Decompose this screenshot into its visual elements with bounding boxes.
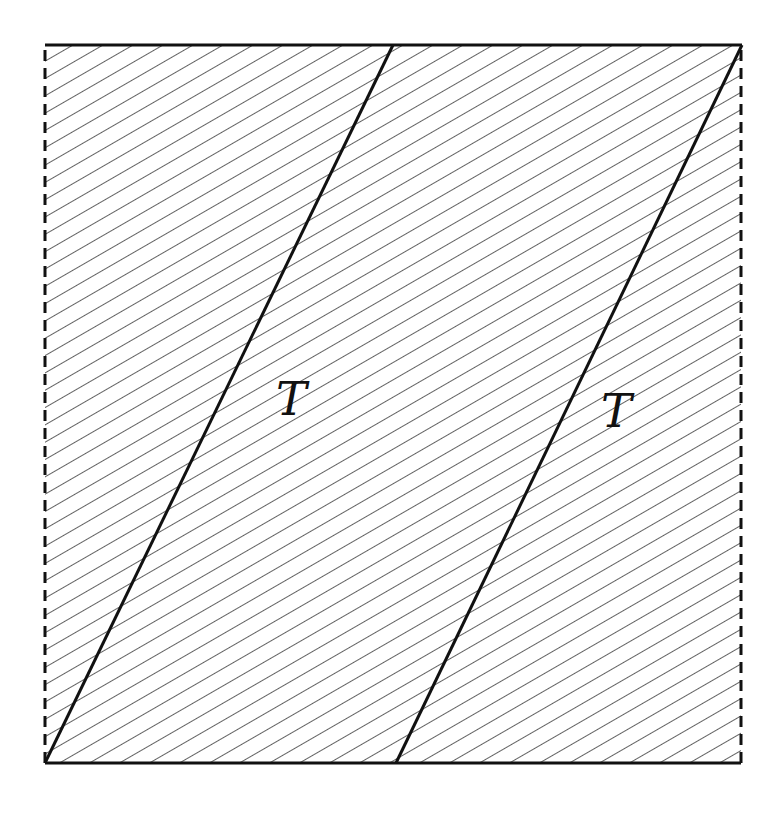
diagram-canvas: T T bbox=[0, 0, 783, 816]
label-T-left: T bbox=[276, 372, 310, 426]
label-T-right: T bbox=[601, 384, 635, 438]
hatched-region bbox=[45, 45, 741, 763]
